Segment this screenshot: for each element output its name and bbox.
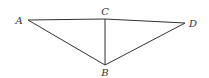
point-label-a: A: [14, 15, 22, 26]
point-label-d: D: [188, 18, 197, 29]
geometry-diagram: A C D B: [0, 0, 209, 78]
segment-ac: [28, 19, 105, 20]
segment-db: [105, 23, 185, 65]
point-label-c: C: [101, 6, 109, 17]
segment-cd: [105, 19, 185, 23]
segment-ab: [28, 20, 105, 65]
point-label-b: B: [100, 67, 108, 78]
